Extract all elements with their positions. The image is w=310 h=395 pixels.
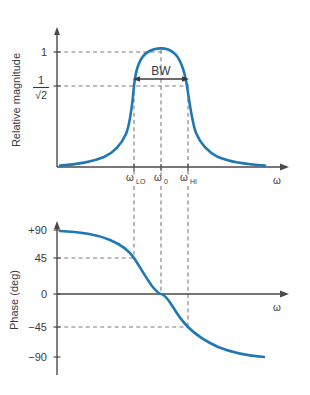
- omega-0-subscript: 0: [164, 178, 168, 185]
- phase-x-axis-arrowhead: [280, 291, 289, 298]
- magnitude-panel: BW 1 1 √2 Relative magnitude ω ω LO ω 0: [10, 27, 289, 186]
- omega-0-base: ω: [154, 172, 162, 183]
- half-power-denominator: √2: [35, 89, 47, 101]
- magnitude-y-axis-arrowhead: [54, 27, 60, 35]
- bode-figure: BW 1 1 √2 Relative magnitude ω ω LO ω 0: [0, 0, 310, 395]
- phase-y-axis-arrowhead: [54, 221, 60, 229]
- omega-lo-base: ω: [126, 172, 134, 183]
- magnitude-xtick-label-omega-0: ω 0: [154, 172, 168, 185]
- phase-y-axis-title: Phase (deg): [8, 270, 20, 330]
- magnitude-xtick-label-omega-lo: ω LO: [126, 172, 146, 185]
- phase-panel: +90 45 0 −45 −90 Phase (deg) ω: [8, 221, 289, 375]
- bandwidth-label: BW: [151, 64, 171, 78]
- phase-ytick-label-plus90: +90: [28, 224, 47, 236]
- omega-lo-subscript: LO: [136, 178, 146, 185]
- magnitude-xtick-label-omega-hi: ω HI: [180, 172, 197, 185]
- magnitude-ytick-label-one: 1: [41, 46, 47, 58]
- phase-y-axis: [54, 221, 60, 375]
- half-power-numerator: 1: [38, 74, 44, 86]
- magnitude-y-axis: [54, 27, 60, 167]
- magnitude-ytick-label-half-power: 1 √2: [33, 74, 49, 101]
- phase-ytick-label-minus90: −90: [28, 351, 47, 363]
- phase-x-axis-title: ω: [273, 302, 281, 313]
- phase-ytick-label-0: 0: [41, 288, 47, 300]
- phase-x-axis: [57, 291, 289, 298]
- omega-hi-subscript: HI: [190, 178, 197, 185]
- magnitude-x-axis-title: ω: [273, 175, 281, 186]
- phase-ytick-label-minus45: −45: [28, 321, 47, 333]
- omega-hi-base: ω: [180, 172, 188, 183]
- magnitude-x-axis-arrowhead: [280, 164, 289, 171]
- magnitude-y-axis-title: Relative magnitude: [10, 53, 22, 147]
- phase-ytick-label-45: 45: [35, 252, 47, 264]
- panel-connectors: [134, 186, 188, 327]
- figure-canvas: BW 1 1 √2 Relative magnitude ω ω LO ω 0: [0, 0, 310, 395]
